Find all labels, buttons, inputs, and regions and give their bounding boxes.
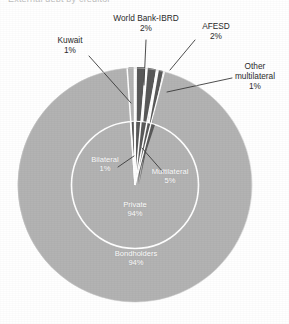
- callout-world-bank-label: World Bank-IBRD: [113, 13, 178, 23]
- callout-kuwait-pct: 1%: [46, 46, 94, 56]
- leader-line-afesd: [170, 40, 195, 70]
- callout-afesd-pct: 2%: [192, 32, 240, 42]
- callout-other-multilateral-pct: 1%: [223, 82, 287, 92]
- callout-afesd-label: AFESD: [202, 21, 230, 31]
- label-bilateral-text: Bilateral: [91, 155, 118, 164]
- callout-world-bank-pct: 2%: [96, 24, 196, 34]
- callout-world-bank-ibrd: World Bank-IBRD 2%: [96, 14, 196, 34]
- label-multilateral: Multilateral 5%: [142, 167, 198, 185]
- label-multilateral-text: Multilateral: [152, 167, 189, 176]
- callout-other-multilateral-line1: Other: [245, 61, 266, 71]
- label-private: Private 94%: [112, 200, 158, 218]
- label-bondholders-text: Bondholders: [115, 249, 158, 258]
- label-bondholders-pct: 94%: [98, 258, 174, 267]
- callout-kuwait: Kuwait 1%: [46, 36, 94, 56]
- label-bilateral-pct: 1%: [82, 164, 128, 173]
- label-multilateral-pct: 5%: [142, 176, 198, 185]
- pie-chart-svg: [0, 0, 289, 324]
- callout-afesd: AFESD 2%: [192, 22, 240, 42]
- pie-chart-figure: External debt by creditor: [0, 0, 289, 324]
- label-private-text: Private: [123, 200, 147, 209]
- callout-kuwait-label: Kuwait: [58, 35, 83, 45]
- label-bilateral: Bilateral 1%: [82, 155, 128, 173]
- callout-other-multilateral: Other multilateral 1%: [223, 62, 287, 91]
- label-private-pct: 94%: [112, 209, 158, 218]
- label-bondholders: Bondholders 94%: [98, 249, 174, 267]
